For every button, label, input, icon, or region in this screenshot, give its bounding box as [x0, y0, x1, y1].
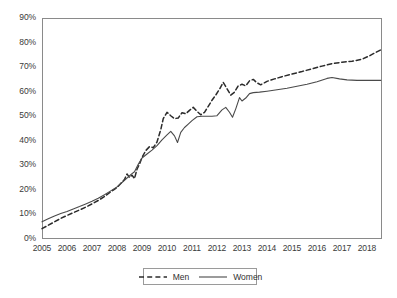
legend-label-women: Women [233, 272, 262, 282]
plot-series-svg [0, 0, 397, 298]
chart-legend: Men Women [143, 268, 257, 285]
legend-item-women: Women [198, 272, 262, 282]
series-line-men [42, 50, 381, 229]
legend-item-men: Men [138, 272, 190, 282]
legend-dashed-line-icon [138, 274, 168, 280]
legend-solid-line-icon [198, 274, 228, 280]
chart-container: 0%10%20%30%40%50%60%70%80%90% 2005200620… [0, 0, 397, 298]
x-axis-tick-label: 2018 [352, 243, 382, 253]
series-line-women [42, 77, 381, 221]
legend-label-men: Men [173, 272, 190, 282]
